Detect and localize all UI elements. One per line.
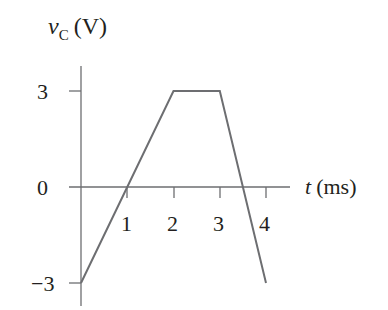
x-axis-var: t [305, 174, 312, 199]
y-axis-unit: (V) [74, 13, 107, 39]
x-tick-label-1: 1 [121, 211, 132, 236]
y-axis-var: v [48, 13, 59, 39]
x-tick-label-2: 2 [167, 211, 178, 236]
chart: vC(V) 3 0 −3 1 2 3 4 t(ms) [0, 0, 388, 310]
x-tick-label-3: 3 [213, 211, 224, 236]
x-tick-label-4: 4 [259, 211, 270, 236]
y-tick-label-3: 3 [37, 79, 48, 104]
x-axis-label: t(ms) [305, 174, 356, 199]
y-axis-sub: C [59, 27, 69, 43]
x-axis-unit: (ms) [316, 174, 356, 199]
y-axis-label: vC(V) [48, 13, 107, 43]
y-tick-label-neg3: −3 [31, 271, 54, 296]
y-tick-label-0: 0 [37, 175, 48, 200]
